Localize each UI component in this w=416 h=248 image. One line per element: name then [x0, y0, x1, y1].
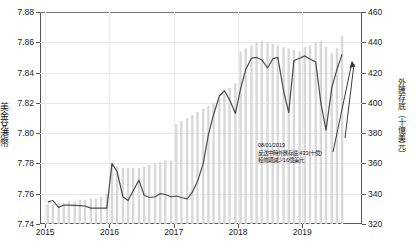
reserve-bar — [228, 88, 230, 224]
chart-overlay-svg — [0, 0, 416, 248]
reserve-bar — [218, 98, 220, 224]
reserve-bar — [250, 45, 252, 224]
reserve-bar — [47, 204, 49, 224]
reserve-bar — [180, 121, 182, 224]
exchange-rate-line — [48, 54, 342, 208]
reserve-bar — [320, 41, 322, 224]
reserve-bar — [100, 197, 102, 224]
reserve-bar — [309, 45, 311, 224]
reserve-bar — [52, 204, 54, 224]
reserve-bar — [186, 118, 188, 224]
chart-annotation: 08/01/2019 反送中時外匯存底:433(十億) 較前期減少16億美元 — [258, 142, 322, 165]
forex-reserve-chart: 7.747.767.787.807.827.847.867.8832034036… — [0, 0, 416, 248]
reserve-bar — [298, 51, 300, 224]
reserve-bar — [84, 200, 86, 224]
reserve-bar — [277, 45, 279, 224]
reserve-bar — [261, 41, 263, 224]
reserve-bar — [159, 162, 161, 224]
reserve-bar — [207, 106, 209, 224]
reserve-bar — [331, 53, 333, 224]
reserve-bar — [341, 36, 343, 224]
reserve-bar — [90, 198, 92, 224]
reserve-bar — [266, 42, 268, 224]
reserve-bar — [170, 160, 172, 224]
reserve-bar — [127, 168, 129, 224]
reserve-bar — [74, 201, 76, 224]
reserve-bar — [282, 47, 284, 224]
reserve-bar — [304, 47, 306, 224]
reserve-bar — [132, 168, 134, 224]
reserve-bar — [79, 200, 81, 224]
reserve-bar — [255, 42, 257, 224]
reserve-bar — [154, 163, 156, 224]
annotation-line-3: 較前期減少16億美元 — [258, 157, 322, 165]
reserve-bar — [288, 48, 290, 224]
rate-line-path — [48, 54, 342, 208]
reserve-bars — [47, 36, 344, 224]
reserve-bar — [239, 51, 241, 224]
y-axis-title-left: 美金兌港幣 — [0, 102, 8, 147]
annotation-arrow-head — [350, 61, 356, 68]
reserve-bar — [148, 165, 150, 224]
reserve-bar — [175, 124, 177, 224]
reserve-bar — [196, 112, 198, 224]
reserve-bar — [325, 47, 327, 224]
reserve-bar — [293, 50, 295, 224]
reserve-bar — [164, 160, 166, 224]
y-axis-title-right: 外匯存底（十億美元） — [396, 78, 404, 158]
reserve-bar — [271, 44, 273, 224]
reserve-bar — [234, 83, 236, 224]
reserve-bar — [223, 94, 225, 224]
reserve-bar — [95, 198, 97, 224]
annotation-date: 08/01/2019 — [258, 142, 322, 150]
reserve-bar — [212, 103, 214, 224]
reserve-bar — [191, 115, 193, 224]
reserve-bar — [138, 168, 140, 224]
